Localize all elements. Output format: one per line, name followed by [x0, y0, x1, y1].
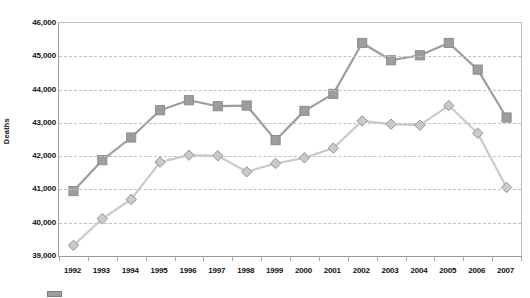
data-point-marker [184, 150, 194, 160]
data-point-marker [300, 106, 309, 115]
x-axis-tick-label: 2007 [497, 266, 514, 275]
x-axis-tick-label: 1993 [93, 266, 110, 275]
gridline [59, 189, 521, 190]
gridline [59, 156, 521, 157]
y-axis-tick-labels: 46,00045,00044,00043,00042,00041,00040,0… [12, 0, 56, 298]
y-axis-tick-label: 41,000 [12, 184, 56, 193]
y-axis-tick-label: 39,000 [12, 251, 56, 260]
series-square [69, 38, 511, 195]
data-point-marker [241, 167, 251, 177]
data-point-marker [415, 51, 424, 60]
data-point-marker [501, 182, 511, 192]
plot-area [58, 22, 522, 257]
y-axis-tick-label: 46,000 [12, 18, 56, 27]
y-axis-tick-label: 44,000 [12, 84, 56, 93]
x-axis-tick-mark [88, 256, 89, 261]
x-axis-tick-mark [232, 256, 233, 261]
data-point-marker [299, 153, 309, 163]
x-axis-tick-label: 2004 [410, 266, 427, 275]
x-axis-tick-mark [203, 256, 204, 261]
gridline [59, 56, 521, 57]
gridline [59, 90, 521, 91]
data-point-marker [358, 38, 367, 47]
y-axis-tick-label: 42,000 [12, 151, 56, 160]
x-axis-tick-label: 1992 [64, 266, 81, 275]
data-point-marker [127, 133, 136, 142]
data-point-marker [155, 106, 164, 115]
gridline [59, 123, 521, 124]
data-point-marker [473, 65, 482, 74]
y-axis-tick-label: 43,000 [12, 117, 56, 126]
data-point-marker [444, 38, 453, 47]
x-axis-tick-label: 1998 [237, 266, 254, 275]
chart-container: Deaths 46,00045,00044,00043,00042,00041,… [0, 0, 530, 298]
data-point-marker [271, 136, 280, 145]
x-axis-tick-label: 1996 [179, 266, 196, 275]
x-axis-tick-mark [463, 256, 464, 261]
x-axis-tick-mark [492, 256, 493, 261]
x-axis-tick-label: 2006 [468, 266, 485, 275]
x-axis-tick-mark [117, 256, 118, 261]
chart-series-layer [59, 23, 521, 256]
x-axis-tick-mark [348, 256, 349, 261]
x-axis-tick-label: 2003 [382, 266, 399, 275]
x-axis-tick-mark [175, 256, 176, 261]
x-axis-tick-mark [319, 256, 320, 261]
x-axis-tick-mark [59, 256, 60, 261]
legend-swatch-icon [47, 291, 62, 297]
x-axis-tick-label: 2000 [295, 266, 312, 275]
y-axis-tick-label: 40,000 [12, 217, 56, 226]
x-axis-tick-label: 2005 [439, 266, 456, 275]
data-point-marker [69, 186, 78, 195]
x-axis-tick-label: 2001 [324, 266, 341, 275]
gridline [59, 223, 521, 224]
data-point-marker [242, 101, 251, 110]
data-point-marker [184, 96, 193, 105]
x-axis-tick-label: 1995 [151, 266, 168, 275]
y-axis-tick-label: 45,000 [12, 51, 56, 60]
x-axis-tick-label: 1999 [266, 266, 283, 275]
x-axis-tick-mark [406, 256, 407, 261]
series-line [73, 43, 506, 191]
data-point-marker [386, 119, 396, 129]
x-axis-tick-label: 1994 [122, 266, 139, 275]
x-axis-tick-mark [146, 256, 147, 261]
x-axis-tick-mark [434, 256, 435, 261]
data-point-marker [213, 102, 222, 111]
x-axis-tick-label: 2002 [353, 266, 370, 275]
x-axis-tick-mark [521, 256, 522, 261]
data-point-marker [329, 89, 338, 98]
x-axis-tick-mark [290, 256, 291, 261]
x-axis-tick-mark [261, 256, 262, 261]
data-point-marker [502, 113, 511, 122]
x-axis-tick-label: 1997 [208, 266, 225, 275]
data-point-marker [270, 158, 280, 168]
x-axis-tick-mark [377, 256, 378, 261]
